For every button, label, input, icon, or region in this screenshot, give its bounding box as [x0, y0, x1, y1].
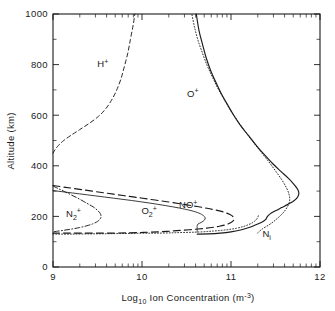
- ion-concentration-chart: 9101112 02004006008001000 H+ O+ NO+ N2+ …: [0, 0, 335, 311]
- x-tick-label: 12: [314, 271, 325, 282]
- curve-lower-dotted: [53, 215, 259, 234]
- curve-label-h-plus: H+: [97, 58, 108, 70]
- x-tick-label: 9: [50, 271, 56, 282]
- y-tick-label: 600: [31, 110, 48, 121]
- y-axis-title: Altitude (km): [5, 112, 16, 169]
- curve-label-o-plus: O+: [187, 87, 198, 99]
- x-axis-title: Log10 Ion Concentration (m-3): [121, 292, 254, 305]
- x-tick-label: 11: [226, 271, 237, 282]
- y-tick-label: 1000: [25, 8, 48, 19]
- y-tick-label: 0: [42, 261, 48, 272]
- curve-label-o2-plus: O2+: [141, 205, 156, 218]
- y-tick-label: 800: [31, 59, 48, 70]
- axis-titles: Log10 Ion Concentration (m-3) Altitude (…: [5, 112, 255, 304]
- x-tick-label: 10: [136, 271, 147, 282]
- y-tick-label: 400: [31, 160, 48, 171]
- ion-concentration-figure: 9101112 02004006008001000 H+ O+ NO+ N2+ …: [0, 0, 335, 311]
- curve-label-n2-plus: N2+: [66, 207, 81, 220]
- data-curves: [53, 14, 299, 234]
- curve-annotations: H+ O+ NO+ N2+ O2+ Ni: [66, 58, 271, 241]
- curve-h: [53, 14, 135, 153]
- curve-ni: [196, 14, 299, 234]
- plot-frame: [53, 14, 320, 267]
- y-tick-labels: 02004006008001000: [25, 8, 48, 272]
- y-tick-label: 200: [31, 211, 48, 222]
- curve-o: [192, 14, 290, 233]
- curve-label-no-plus: NO+: [179, 199, 197, 211]
- x-tick-labels: 9101112: [50, 271, 326, 282]
- axis-ticks: [53, 14, 320, 267]
- curve-label-ni: Ni: [262, 228, 271, 241]
